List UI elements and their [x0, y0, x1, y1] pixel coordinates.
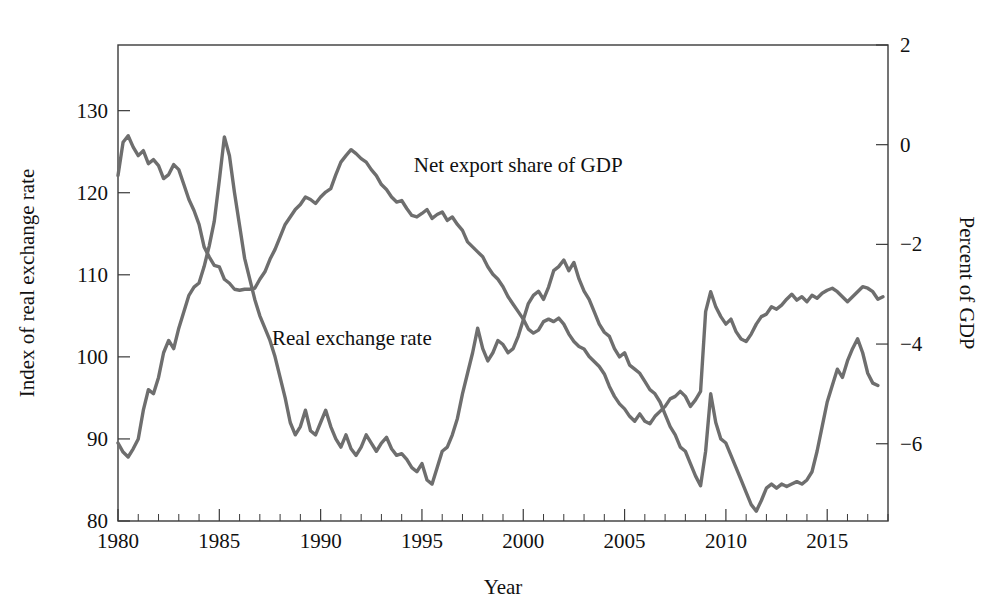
series-lines [118, 136, 883, 511]
x-axis-title: Year [484, 575, 523, 599]
y-right-tick-label: 2 [900, 33, 911, 57]
chart-figure: 19801985199019952000200520102015 8090100… [0, 0, 989, 612]
dual-axis-line-chart: 19801985199019952000200520102015 8090100… [0, 0, 989, 612]
y-left-tick-label: 90 [87, 427, 108, 451]
y-left-tick-label: 110 [77, 263, 108, 287]
y-left-tick-label: 130 [77, 99, 109, 123]
y-left-tick-label: 80 [87, 509, 108, 533]
y-axis-right-tick-labels: 20−2−4−6 [900, 33, 923, 456]
x-tick-label: 2010 [705, 529, 747, 553]
x-tick-label: 1995 [401, 529, 443, 553]
y-left-tick-label: 100 [77, 345, 109, 369]
x-tick-label: 2005 [604, 529, 646, 553]
y-left-tick-label: 120 [77, 181, 109, 205]
series-line [118, 137, 878, 511]
y-right-tick-label: −2 [900, 232, 922, 256]
x-tick-label: 2015 [806, 529, 848, 553]
y-right-tick-label: −4 [900, 332, 923, 356]
series-label: Net export share of GDP [414, 153, 623, 177]
y-axis-left-tick-labels: 8090100110120130 [77, 99, 109, 533]
x-axis-minor-ticks [138, 514, 888, 521]
y-axis-right-title: Percent of GDP [955, 217, 979, 350]
x-axis-major-ticks [118, 509, 827, 521]
x-axis-tick-labels: 19801985199019952000200520102015 [97, 529, 848, 553]
series-label: Real exchange rate [272, 326, 432, 350]
series-annotations: Net export share of GDPReal exchange rat… [272, 153, 623, 349]
x-tick-label: 1990 [300, 529, 342, 553]
y-right-tick-label: −6 [900, 432, 922, 456]
plot-frame [118, 45, 888, 521]
y-right-tick-label: 0 [900, 133, 911, 157]
y-axis-left-title: Index of real exchange rate [15, 169, 39, 398]
x-tick-label: 2000 [502, 529, 544, 553]
x-tick-label: 1985 [198, 529, 240, 553]
